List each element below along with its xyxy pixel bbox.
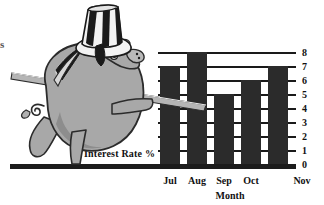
bar-aug [187,52,207,164]
x-tick-jul: Jul [155,175,185,186]
bar-sep [214,94,234,164]
y-tick-4: 4 [302,104,322,114]
y-tick-6: 6 [302,76,322,86]
x-tick-sep: Sep [209,175,239,186]
x-axis-title: Month [205,190,255,201]
y-tick-3: 3 [302,118,322,128]
y-tick-7: 7 [302,62,322,72]
y-tick-1: 1 [302,146,322,156]
bar-oct [241,80,261,164]
y-tick-8: 8 [302,48,322,58]
series-label-interest-rate: Interest Rate % [84,148,155,159]
y-tick-5: 5 [302,90,322,100]
bar-nov [268,66,288,164]
x-axis-line [10,164,296,169]
gridline-8 [158,52,296,54]
figure-canvas: s 8 7 6 5 4 3 2 1 0 Jul Aug Sep Oct N [0,0,324,205]
y-tick-0: 0 [302,160,322,170]
bar-jul [160,66,180,164]
x-tick-nov: Nov [285,175,319,186]
x-tick-aug: Aug [182,175,212,186]
y-tick-2: 2 [302,132,322,142]
x-tick-oct: Oct [236,175,266,186]
bar-chart: 8 7 6 5 4 3 2 1 0 Jul Aug Sep Oct Nov Mo… [0,0,324,205]
